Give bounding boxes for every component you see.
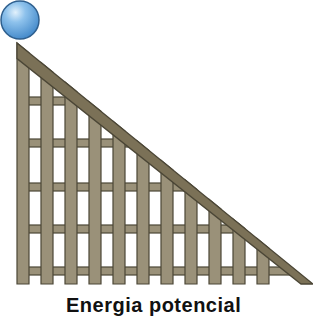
- ball-icon: [1, 1, 39, 39]
- figure-caption: Energia potencial: [66, 294, 241, 317]
- post: [17, 43, 29, 284]
- post: [113, 121, 125, 284]
- post: [89, 102, 101, 284]
- post: [41, 63, 53, 284]
- rail: [17, 139, 313, 147]
- rail: [17, 97, 313, 105]
- post: [65, 82, 77, 284]
